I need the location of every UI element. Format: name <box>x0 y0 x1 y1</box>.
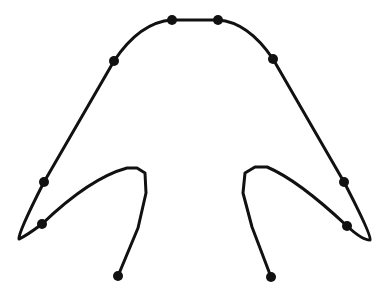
curve-path <box>19 20 370 277</box>
diagram-canvas <box>0 0 391 296</box>
control-points <box>37 15 352 282</box>
dot-top-left <box>167 15 177 25</box>
dot-top-right <box>213 15 223 25</box>
dot-left-upper <box>39 177 49 187</box>
dot-upper-left <box>109 56 119 66</box>
dot-right-lower <box>342 221 352 231</box>
dot-right-upper <box>339 177 349 187</box>
dot-left-lower <box>37 219 47 229</box>
dot-upper-right <box>268 54 278 64</box>
dot-bottom-left <box>113 271 123 281</box>
dot-bottom-right <box>266 272 276 282</box>
curve-diagram <box>0 0 391 296</box>
